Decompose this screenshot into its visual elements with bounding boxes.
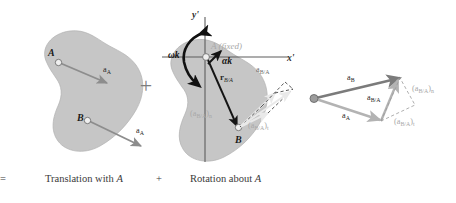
rigid-body-acceleration-figure: A aA B aA + y' x' A (fixed) (0, 0, 456, 203)
point-a-label: A (47, 47, 55, 58)
point-a-fixed-label: A (fixed) (210, 41, 242, 51)
plus-sign-caption: + (156, 173, 162, 184)
point-b-marker (84, 117, 90, 123)
axis-y-prime-label: y' (191, 10, 199, 20)
caption-translation: Translation with A (45, 173, 123, 184)
vector-a-ba-n-label-right: (aB/A)n (412, 84, 434, 94)
figure-canvas: A aA B aA + y' x' A (fixed) (0, 0, 456, 203)
plus-sign-diagram: + (140, 73, 152, 98)
panel-translation: A aA B aA (45, 31, 145, 152)
alpha-k-label: αk (222, 56, 232, 66)
dashed-component-box (381, 78, 415, 121)
vector-origin-marker (310, 95, 318, 103)
equals-sign-caption: = (0, 173, 6, 184)
point-b-rotation-label: B (234, 134, 242, 145)
vector-a-ba-label-rotation: aB/A (256, 65, 270, 75)
vector-a-b-label: aB (347, 73, 355, 83)
origin-a-marker (203, 54, 210, 61)
vector-a-a-right-label: aA (342, 111, 351, 121)
panel-rotation: y' x' A (fixed) ωk αk rB/A B (162, 10, 295, 162)
vector-a-a-bottom-label: aA (136, 126, 145, 136)
vector-a-ba-right-label: aB/A (367, 93, 381, 103)
vector-a-b (316, 78, 400, 98)
axis-x-prime-label: x' (286, 53, 295, 63)
caption-rotation: Rotation about A (190, 173, 262, 184)
point-a-marker (55, 59, 61, 65)
panel-vector-triangle: aB aA aB/A (aB/A)n (aB/A)t (310, 73, 434, 127)
vector-a-ba-t-label-right: (aB/A)t (394, 117, 415, 127)
body-outline-translation (45, 31, 143, 152)
body-outline-rotation (171, 39, 267, 161)
point-b-label: B (76, 112, 84, 123)
omega-k-label: ωk (168, 50, 180, 60)
